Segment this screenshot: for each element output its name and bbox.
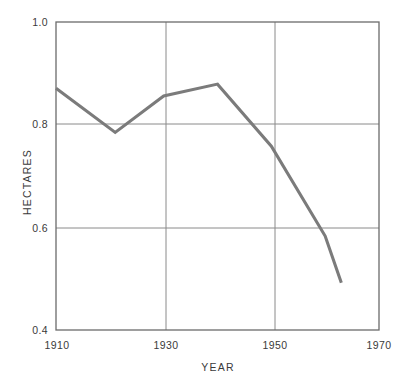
plot-frame — [56, 22, 379, 330]
y-tick-label-0-8: 0.8 — [22, 119, 48, 130]
y-tick-label-0-4: 0.4 — [22, 325, 48, 336]
x-axis-title: YEAR — [178, 362, 258, 373]
grid-lines — [56, 22, 379, 330]
line-chart-plot — [0, 0, 411, 384]
axes-frame — [56, 22, 379, 330]
x-tick-label-1970: 1970 — [359, 340, 399, 351]
x-tick-label-1950: 1950 — [255, 340, 295, 351]
x-tick-label-1910: 1910 — [37, 340, 77, 351]
data-series-line — [56, 84, 341, 283]
y-axis-title: HECTARES — [22, 149, 33, 215]
chart-container: 1.0 0.8 0.6 0.4 1910 1930 1950 1970 HECT… — [0, 0, 411, 384]
y-tick-label-1-0: 1.0 — [22, 17, 48, 28]
y-tick-label-0-6: 0.6 — [22, 223, 48, 234]
x-tick-label-1930: 1930 — [146, 340, 186, 351]
